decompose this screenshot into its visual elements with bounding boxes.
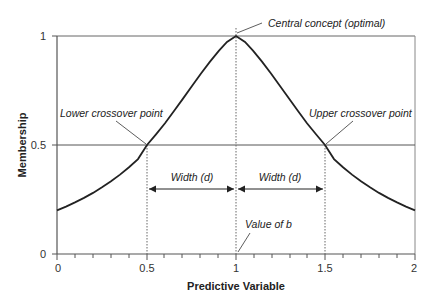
y-axis-title: Membership bbox=[16, 112, 28, 177]
x-axis-title: Predictive Variable bbox=[187, 280, 285, 292]
x-tick-2: 2 bbox=[411, 262, 417, 274]
y-tick-0.5: 0.5 bbox=[31, 139, 46, 151]
membership-chart: 1 0.5 0 0 0.5 1 1.5 2 Predictive Variabl… bbox=[0, 0, 436, 299]
x-tick-0: 0 bbox=[55, 262, 61, 274]
lower-crossover-leader bbox=[116, 121, 146, 144]
x-tick-1: 1 bbox=[233, 262, 239, 274]
reference-dotted-lines bbox=[147, 28, 325, 254]
y-tick-1: 1 bbox=[40, 30, 46, 42]
width-right-label: Width (d) bbox=[259, 171, 302, 183]
y-tick-0: 0 bbox=[40, 248, 46, 260]
x-tick-1.5: 1.5 bbox=[317, 262, 332, 274]
x-tick-0.5: 0.5 bbox=[139, 262, 154, 274]
upper-crossover-leader bbox=[326, 121, 353, 144]
value-b-label: Value of b bbox=[245, 218, 292, 230]
y-axis-ticks bbox=[52, 36, 57, 254]
central-concept-label: Central concept (optimal) bbox=[268, 17, 385, 29]
x-axis-ticks bbox=[57, 254, 415, 260]
central-concept-leader bbox=[237, 23, 262, 33]
lower-crossover-label: Lower crossover point bbox=[60, 107, 164, 119]
upper-crossover-label: Upper crossover point bbox=[309, 107, 413, 119]
width-left-label: Width (d) bbox=[171, 171, 214, 183]
value-b-leader bbox=[238, 233, 250, 252]
